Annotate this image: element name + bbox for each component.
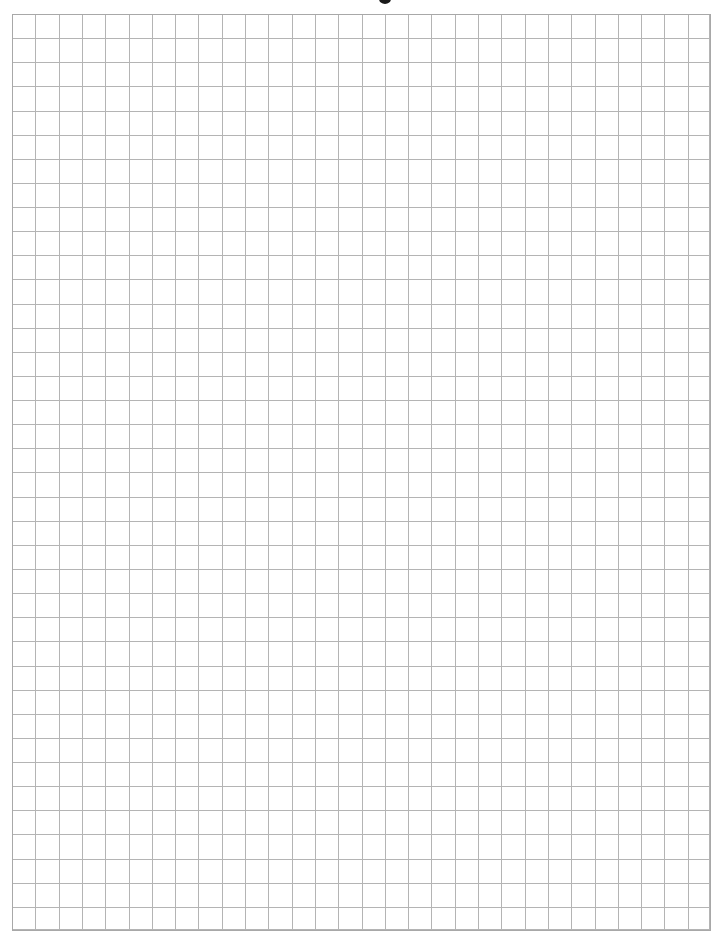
clipped-title-glyph bbox=[379, 0, 391, 4]
graph-paper-page bbox=[0, 0, 726, 941]
square-grid bbox=[12, 14, 711, 931]
